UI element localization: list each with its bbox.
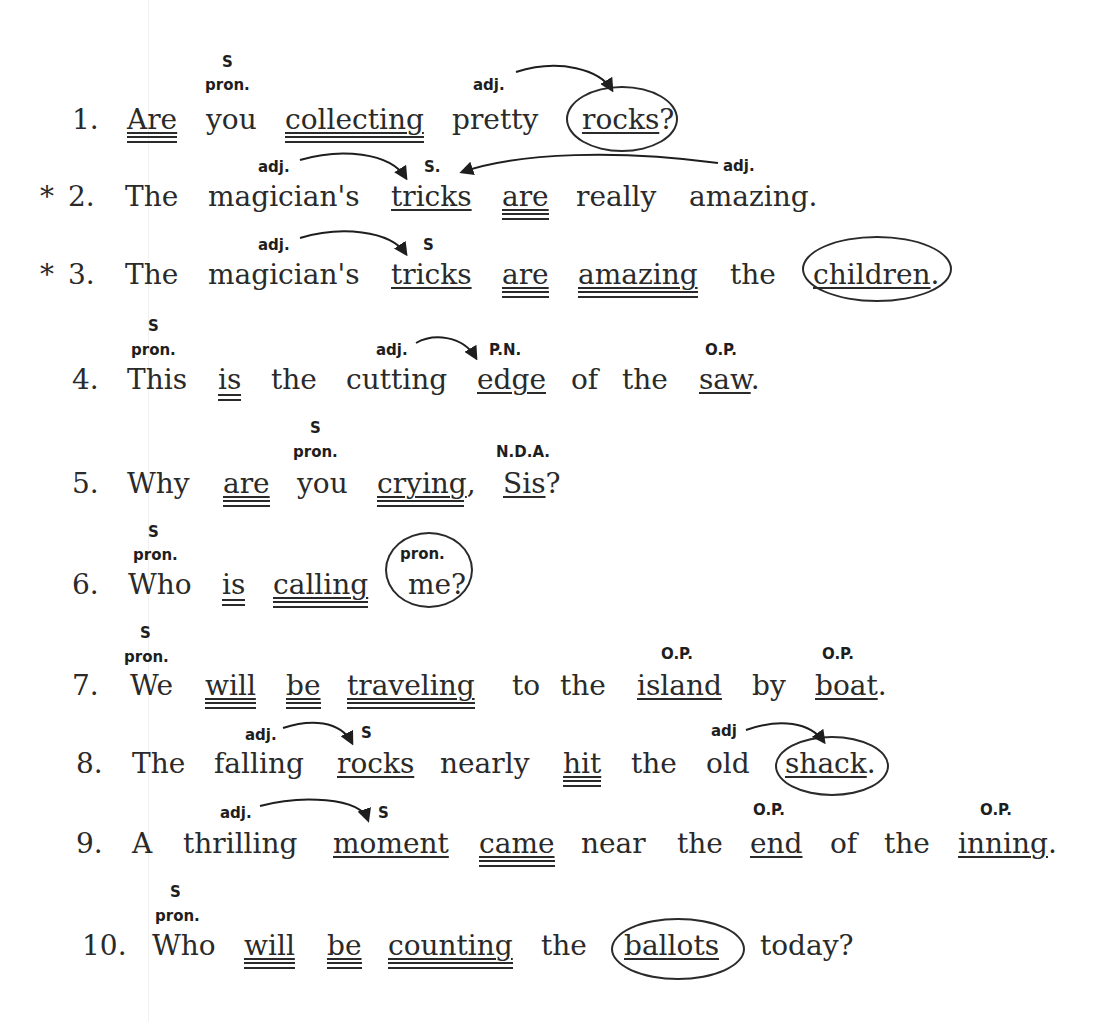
- word-verb: will: [205, 672, 256, 700]
- label-object-of-preposition: O.P.: [705, 343, 737, 358]
- label-object-of-preposition: O.P.: [661, 647, 693, 662]
- label-pronoun: pron.: [205, 78, 250, 93]
- word: The: [125, 261, 178, 289]
- label-adjective: adj.: [376, 343, 408, 358]
- label-adjective: adj.: [473, 78, 505, 93]
- word: thrilling: [183, 830, 297, 858]
- word-verb: calling: [273, 571, 368, 599]
- arrow-icon: [300, 154, 406, 178]
- word-direct-object: rocks?: [582, 106, 674, 134]
- word: the: [560, 672, 606, 700]
- label-subject: S: [222, 55, 233, 70]
- word-direct-object: ballots: [624, 932, 719, 960]
- label-subject: S: [361, 726, 372, 741]
- word: Who: [152, 932, 216, 960]
- word-verb: came: [479, 830, 555, 858]
- word: really: [576, 183, 656, 211]
- label-noun-direct-address: N.D.A.: [496, 445, 550, 460]
- label-subject: S: [423, 238, 434, 253]
- arrow-icon: [462, 155, 718, 172]
- word-verb: be: [286, 672, 321, 700]
- word-object-of-preposition: boat.: [815, 672, 887, 700]
- label-pronoun: pron.: [400, 547, 445, 562]
- word: of: [830, 830, 857, 858]
- word: today?: [760, 932, 854, 960]
- word-direct-object: shack.: [785, 750, 876, 778]
- word-verb: is: [218, 366, 241, 394]
- starred-marker: *: [40, 183, 54, 211]
- arrow-icon: [416, 337, 476, 358]
- word-object-of-preposition: end: [750, 830, 803, 858]
- label-subject: S: [148, 525, 159, 540]
- label-predicate-nominative: P.N.: [489, 343, 521, 358]
- sentence-number: 1.: [72, 106, 99, 134]
- word: We: [130, 672, 173, 700]
- word-verb: is: [222, 571, 245, 599]
- word: amazing.: [689, 183, 818, 211]
- word: the: [541, 932, 587, 960]
- label-adjective: adj: [711, 724, 737, 739]
- worksheet-page: S pron. adj. 1. Are you collecting prett…: [0, 0, 1102, 1022]
- label-adjective: adj.: [245, 728, 277, 743]
- sentence-number: 3.: [68, 261, 95, 289]
- word-verb: are: [223, 470, 270, 498]
- word: by: [752, 672, 786, 700]
- word-direct-object: me?: [408, 571, 466, 599]
- word-verb: will: [244, 932, 295, 960]
- word: the: [631, 750, 677, 778]
- starred-marker: *: [40, 261, 54, 289]
- word-subject: tricks: [391, 261, 472, 289]
- word-verb: crying,: [377, 470, 476, 498]
- word-verb: are: [502, 183, 549, 211]
- label-adjective: adj.: [258, 160, 290, 175]
- label-pronoun: pron.: [131, 343, 176, 358]
- word: magician's: [208, 261, 360, 289]
- word: magician's: [208, 183, 360, 211]
- word: The: [125, 183, 178, 211]
- arrow-icon: [260, 800, 368, 820]
- word: the: [271, 366, 317, 394]
- label-adjective: adj.: [723, 159, 755, 174]
- arrow-icon: [516, 66, 612, 90]
- word-verb: collecting: [285, 106, 424, 134]
- label-subject: S.: [424, 160, 441, 175]
- word: the: [884, 830, 930, 858]
- word: This: [127, 366, 187, 394]
- word-object-of-preposition: island: [637, 672, 722, 700]
- sentence-number: 7.: [72, 672, 99, 700]
- word: to: [512, 672, 540, 700]
- word: nearly: [440, 750, 529, 778]
- sentence-number: 9.: [76, 830, 103, 858]
- label-pronoun: pron.: [293, 445, 338, 460]
- sentence-number: 6.: [72, 571, 99, 599]
- label-subject: S: [378, 806, 389, 821]
- word: cutting: [346, 366, 447, 394]
- label-subject: S: [310, 421, 321, 436]
- word: Why: [127, 470, 190, 498]
- label-object-of-preposition: O.P.: [822, 647, 854, 662]
- word: falling: [214, 750, 304, 778]
- label-object-of-preposition: O.P.: [753, 803, 785, 818]
- label-object-of-preposition: O.P.: [980, 803, 1012, 818]
- modifier-arrows: [0, 0, 1102, 1022]
- word: you: [297, 470, 348, 498]
- word: of: [571, 366, 598, 394]
- word-predicate-nominative: edge: [477, 366, 546, 394]
- sentence-number: 4.: [72, 366, 99, 394]
- label-subject: S: [148, 319, 159, 334]
- label-pronoun: pron.: [155, 909, 200, 924]
- word-verb: Are: [127, 106, 177, 134]
- word-verb: counting: [388, 932, 513, 960]
- page-margin-line: [148, 0, 149, 1022]
- word-direct-object: children.: [813, 261, 939, 289]
- label-adjective: adj.: [258, 238, 290, 253]
- word: near: [581, 830, 646, 858]
- word: pretty: [452, 106, 538, 134]
- word-object-of-preposition: saw.: [699, 366, 760, 394]
- label-subject: S: [140, 626, 151, 641]
- word-verb: hit: [563, 750, 601, 778]
- sentence-number: 5.: [72, 470, 99, 498]
- word: the: [677, 830, 723, 858]
- label-pronoun: pron.: [124, 650, 169, 665]
- arrow-icon: [283, 723, 352, 743]
